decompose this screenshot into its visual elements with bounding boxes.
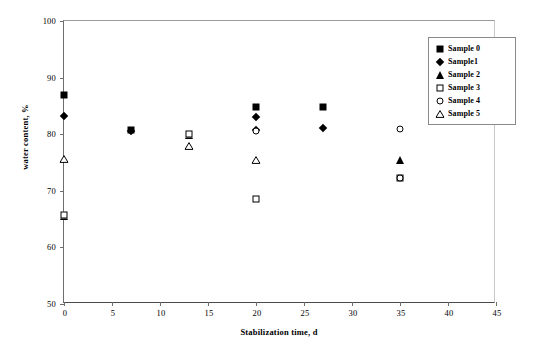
x-axis-tick: 20 bbox=[256, 302, 257, 306]
filled-square-marker-icon bbox=[436, 45, 443, 52]
y-axis-tick-label: 80 bbox=[47, 129, 56, 140]
data-point bbox=[397, 174, 404, 181]
data-point bbox=[252, 113, 260, 121]
open-square-marker-icon bbox=[436, 84, 443, 91]
data-point bbox=[397, 125, 404, 132]
data-point bbox=[185, 131, 192, 138]
x-axis-tick: 30 bbox=[352, 302, 353, 306]
legend-marker-swatch bbox=[434, 108, 445, 119]
x-axis-tick-label: 10 bbox=[157, 308, 166, 319]
data-point bbox=[61, 211, 68, 218]
x-axis-tick-label: 25 bbox=[301, 308, 310, 319]
open-circle-marker-icon bbox=[436, 97, 443, 104]
data-point bbox=[60, 111, 68, 119]
data-point bbox=[61, 91, 68, 98]
data-point bbox=[253, 128, 260, 135]
legend-item-label: Sample 4 bbox=[448, 96, 480, 105]
x-axis-tick: 0 bbox=[64, 302, 65, 306]
y-axis-title: water content, % bbox=[20, 77, 30, 197]
legend-marker-swatch bbox=[434, 69, 445, 80]
x-axis-tick: 25 bbox=[304, 302, 305, 306]
x-axis-tick-label: 20 bbox=[253, 308, 262, 319]
data-point bbox=[320, 104, 327, 111]
x-axis-tick-label: 5 bbox=[111, 308, 115, 319]
x-axis-tick: 35 bbox=[400, 302, 401, 306]
x-axis-tick: 40 bbox=[448, 302, 449, 306]
data-point bbox=[253, 196, 260, 203]
y-axis-tick-label: 60 bbox=[47, 242, 56, 253]
y-axis-tick-label: 90 bbox=[47, 73, 56, 84]
legend-item-sample-4: Sample 4 bbox=[434, 94, 511, 107]
legend-marker-swatch bbox=[434, 95, 445, 106]
filled-triangle-marker-icon bbox=[436, 71, 444, 79]
legend-item-sample-0: Sample 0 bbox=[434, 42, 511, 55]
data-point bbox=[252, 156, 261, 164]
legend-item-sample-2: Sample 2 bbox=[434, 68, 511, 81]
y-axis-tick-label: 50 bbox=[47, 299, 56, 310]
data-point bbox=[184, 142, 193, 150]
x-axis-tick-label: 40 bbox=[445, 308, 454, 319]
y-axis-tick-label: 100 bbox=[43, 16, 56, 27]
x-axis-tick: 45 bbox=[496, 302, 497, 306]
data-point bbox=[60, 155, 69, 163]
open-triangle-marker-icon bbox=[435, 110, 444, 118]
legend-item-label: Sample 0 bbox=[448, 44, 480, 53]
scatter-chart-figure: 5060708090100 051015202530354045 water c… bbox=[0, 0, 535, 353]
x-axis-tick-label: 30 bbox=[349, 308, 358, 319]
x-axis-tick-label: 45 bbox=[493, 308, 502, 319]
x-axis-tick-label: 15 bbox=[205, 308, 214, 319]
x-axis-tick: 5 bbox=[112, 302, 113, 306]
x-axis-tick-label: 35 bbox=[397, 308, 406, 319]
legend-item-label: Sample 5 bbox=[448, 109, 480, 118]
legend-marker-swatch bbox=[434, 82, 445, 93]
x-axis-tick-label: 0 bbox=[63, 308, 67, 319]
x-axis-tick: 15 bbox=[208, 302, 209, 306]
data-point bbox=[396, 156, 404, 164]
filled-diamond-marker-icon bbox=[435, 57, 443, 65]
x-axis-title: Stabilization time, d bbox=[63, 327, 495, 337]
legend-marker-swatch bbox=[434, 43, 445, 54]
legend-item-sample1: Sample1 bbox=[434, 55, 511, 68]
legend-item-label: Sample 2 bbox=[448, 70, 480, 79]
legend-item-label: Sample 3 bbox=[448, 83, 480, 92]
y-axis-tick-label: 70 bbox=[47, 186, 56, 197]
legend-marker-swatch bbox=[434, 56, 445, 67]
data-point bbox=[253, 104, 260, 111]
x-axis-tick: 10 bbox=[160, 302, 161, 306]
legend-item-sample-5: Sample 5 bbox=[434, 107, 511, 120]
legend-item-sample-3: Sample 3 bbox=[434, 81, 511, 94]
data-point bbox=[319, 124, 327, 132]
chart-legend: Sample 0Sample1Sample 2Sample 3Sample 4S… bbox=[428, 37, 516, 125]
legend-item-label: Sample1 bbox=[448, 57, 478, 66]
